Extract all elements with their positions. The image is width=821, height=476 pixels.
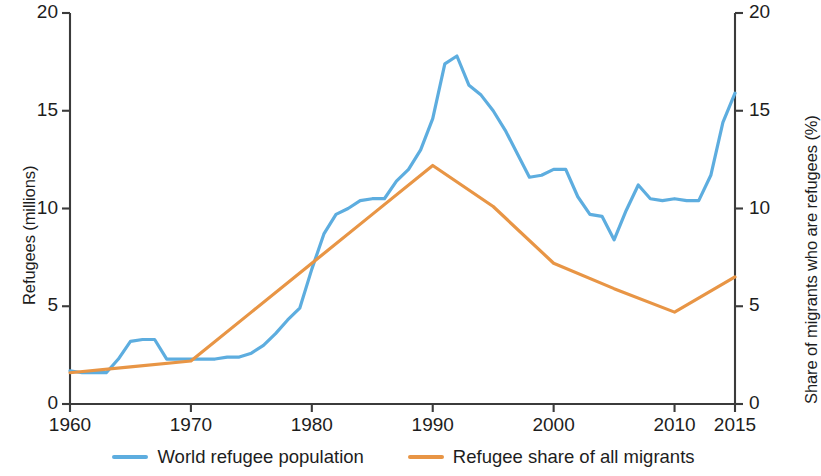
- legend-item-refugee-share[interactable]: Refugee share of all migrants: [408, 446, 695, 468]
- y-axis-right-tick-label: 20: [749, 1, 805, 23]
- legend-swatch-icon: [408, 455, 444, 459]
- x-axis-tick-label: 2015: [695, 414, 775, 436]
- legend-label: World refugee population: [157, 446, 363, 468]
- y-axis-left-title: Refugees (millions): [20, 166, 39, 305]
- x-axis-tick-label: 1970: [151, 414, 231, 436]
- legend-label: Refugee share of all migrants: [453, 446, 695, 468]
- y-axis-right-tick-label: 10: [749, 197, 805, 219]
- y-axis-right-tick-label: 0: [749, 392, 805, 414]
- series-line-refugee-population: [70, 56, 735, 373]
- y-axis-left-tick-label: 0: [2, 392, 58, 414]
- y-axis-left-tick-label: 15: [2, 99, 58, 121]
- y-axis-right-title: Share of migrants who are refugees (%): [802, 115, 821, 404]
- series-line-refugee-share: [70, 165, 735, 372]
- y-axis-right-tick-label: 5: [749, 294, 805, 316]
- legend-item-refugee-population[interactable]: World refugee population: [112, 446, 363, 468]
- y-axis-left-tick-label: 10: [2, 197, 58, 219]
- y-axis-right-tick-label: 15: [749, 99, 805, 121]
- x-axis-tick-label: 1980: [272, 414, 352, 436]
- x-axis-tick-label: 1960: [30, 414, 110, 436]
- y-axis-left-tick-label: 20: [2, 1, 58, 23]
- chart-legend: World refugee populationRefugee share of…: [0, 446, 807, 468]
- legend-swatch-icon: [112, 455, 148, 459]
- x-axis-tick-label: 2000: [514, 414, 594, 436]
- y-axis-left-tick-label: 5: [2, 294, 58, 316]
- x-axis-tick-label: 1990: [393, 414, 473, 436]
